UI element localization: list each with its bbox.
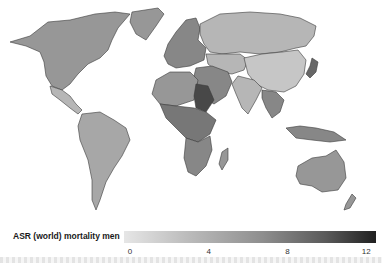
world-map	[0, 0, 382, 215]
region-russia	[200, 12, 316, 54]
region-central-america	[50, 86, 82, 114]
legend: ASR (world) mortality men 0 4 8 12	[0, 226, 382, 252]
region-madagascar	[219, 148, 228, 170]
region-australia	[296, 150, 346, 192]
legend-title: ASR (world) mortality men	[13, 231, 120, 241]
legend-tick: 12	[362, 247, 371, 256]
region-africa-south	[184, 136, 212, 176]
region-greenland	[130, 8, 164, 40]
footer-caption-strip	[0, 257, 382, 263]
legend-tick: 0	[128, 247, 132, 256]
region-southeast-asia	[262, 90, 284, 118]
region-new-zealand	[344, 194, 356, 210]
region-indonesia	[286, 126, 346, 142]
region-africa-north	[152, 72, 198, 106]
legend-tick: 4	[206, 247, 210, 256]
region-south-america	[78, 112, 130, 210]
legend-tick: 8	[285, 247, 289, 256]
region-japan	[306, 58, 318, 78]
region-north-america	[10, 12, 130, 90]
colorbar	[124, 231, 376, 243]
